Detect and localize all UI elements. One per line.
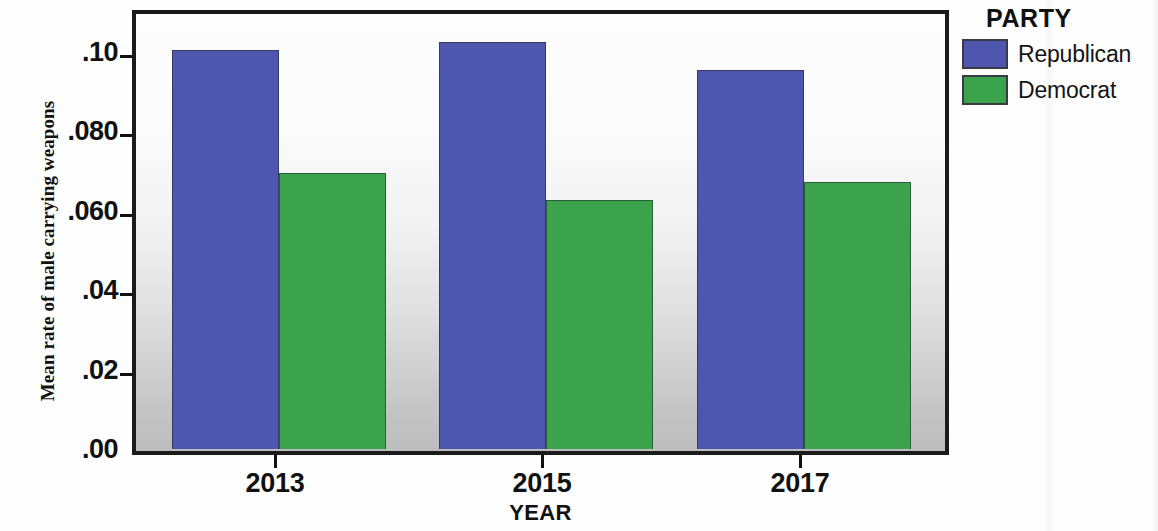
bar-republican-2015 [439, 42, 546, 449]
y-axis-tick-label: .10 [82, 37, 118, 68]
x-axis-tick-label-2013: 2013 [195, 468, 355, 499]
x-axis-tick-mark [274, 455, 277, 468]
legend-item-democrat[interactable]: Democrat [962, 75, 1158, 105]
legend-swatch-democrat-icon [962, 75, 1008, 105]
y-axis-tick-mark [120, 134, 132, 137]
plot-area [132, 10, 949, 455]
legend-title: PARTY [986, 4, 1158, 33]
x-axis-tick-label-2017: 2017 [720, 468, 880, 499]
y-axis-tick-label: .080 [67, 116, 118, 147]
bar-democrat-2013 [279, 173, 386, 449]
legend-swatch-republican-icon [962, 39, 1008, 69]
legend-label-democrat: Democrat [1018, 77, 1116, 104]
y-axis-tick-mark [120, 214, 132, 217]
y-axis-tick-mark [120, 293, 132, 296]
bar-democrat-2015 [546, 200, 653, 449]
bars-container [136, 14, 945, 451]
legend: PARTY Republican Democrat [962, 4, 1158, 111]
y-axis-tick-label: .02 [82, 355, 118, 386]
bar-chart-figure: Mean rate of male carrying weapons .10.0… [0, 0, 1158, 531]
bar-republican-2013 [172, 50, 279, 449]
x-axis-tick-mark [541, 455, 544, 468]
y-axis-tick-labels: .10.080.060.04.02.00 [10, 0, 118, 531]
y-axis-tick-label: .00 [82, 434, 118, 465]
y-axis-tick-label: .060 [67, 196, 118, 227]
x-axis-tick-label-2015: 2015 [462, 468, 622, 499]
bar-republican-2017 [697, 70, 804, 449]
y-axis-tick-label: .04 [82, 275, 118, 306]
y-axis-tick-mark [120, 373, 132, 376]
bar-democrat-2017 [804, 182, 911, 449]
x-axis-title: YEAR [132, 500, 949, 526]
legend-label-republican: Republican [1018, 41, 1131, 68]
y-axis-tick-mark [120, 55, 132, 58]
legend-item-republican[interactable]: Republican [962, 39, 1158, 69]
x-axis-tick-mark [799, 455, 802, 468]
